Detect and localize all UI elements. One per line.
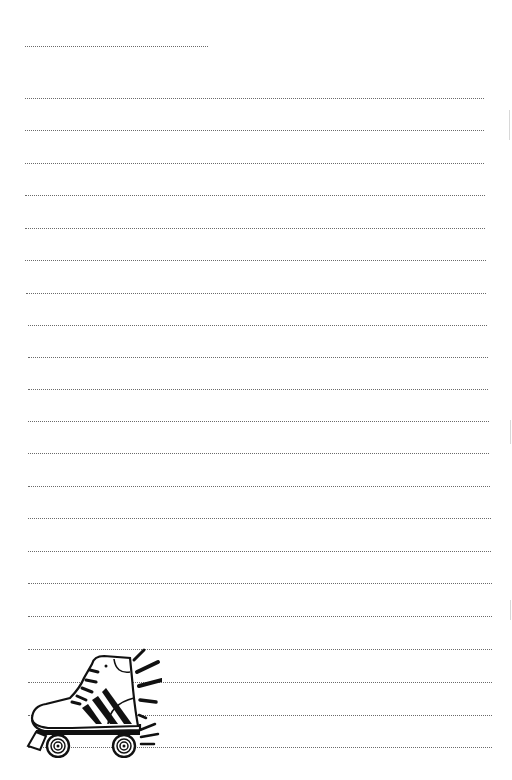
ruled-line: [28, 389, 488, 390]
ruled-line: [28, 518, 491, 519]
ruled-line: [25, 260, 486, 261]
ruled-line: [28, 583, 492, 584]
ruled-line: [25, 228, 485, 229]
page-edge-mark: [510, 600, 511, 620]
ruled-line: [25, 195, 485, 196]
ruled-line: [28, 325, 487, 326]
ruled-line: [28, 616, 492, 617]
ruled-line: [28, 486, 490, 487]
page-edge-mark: [510, 420, 511, 444]
ruled-line: [28, 453, 489, 454]
roller-skate-icon: [22, 642, 162, 758]
ruled-line: [28, 551, 491, 552]
ruled-line: [25, 98, 484, 99]
ruled-line: [28, 357, 488, 358]
name-line: [25, 46, 208, 47]
ruled-line: [25, 163, 484, 164]
lined-paper-page: [0, 0, 512, 780]
ruled-line: [25, 130, 484, 131]
ruled-line: [26, 293, 486, 294]
page-edge-mark: [509, 110, 510, 140]
ruled-line: [28, 421, 489, 422]
